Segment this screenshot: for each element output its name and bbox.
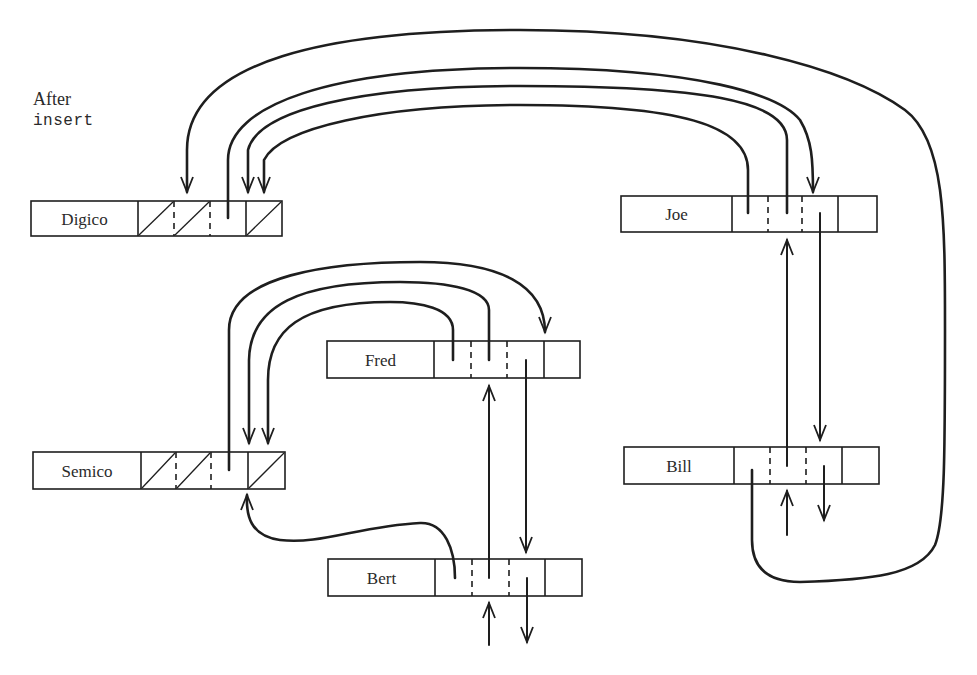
diagram-caption: After insert xyxy=(33,88,94,132)
null-pointer-slash xyxy=(249,453,284,488)
link-bill-next-out xyxy=(818,466,830,520)
link-joe-to-digico-2 xyxy=(258,105,748,213)
null-pointer-slash xyxy=(247,202,281,235)
record-name-digico: Digico xyxy=(61,210,107,229)
caption-line-after: After xyxy=(33,88,94,110)
link-fred-next-bert xyxy=(520,360,532,552)
link-bert-prev-in xyxy=(483,603,495,645)
link-bert-prev-fred xyxy=(483,386,495,578)
link-bert-next-out xyxy=(521,578,533,642)
record-name-bill: Bill xyxy=(666,457,692,476)
link-bill-prev-joe xyxy=(781,240,793,466)
record-name-semico: Semico xyxy=(62,462,113,481)
link-fred-to-semico-2 xyxy=(262,302,453,443)
null-pointer-slash xyxy=(177,453,210,488)
link-joe-next-bill xyxy=(814,213,826,440)
caption-line-insert: insert xyxy=(33,110,94,132)
null-pointer-slash xyxy=(139,202,173,235)
diagram-canvas: DigicoJoeFredSemicoBillBert xyxy=(0,0,977,675)
null-pointer-slash xyxy=(175,202,209,235)
record-name-joe: Joe xyxy=(665,205,688,224)
record-semico: Semico xyxy=(33,452,285,489)
record-name-bert: Bert xyxy=(367,569,397,588)
record-name-fred: Fred xyxy=(365,351,397,370)
linked-list-diagram: After insert DigicoJoeFredSemicoBillBert xyxy=(0,0,977,675)
record-digico: Digico xyxy=(31,201,282,236)
pointer-links xyxy=(181,30,945,645)
link-bill-prev-in xyxy=(781,491,793,535)
null-pointer-slash xyxy=(142,453,175,488)
link-bert-to-semico xyxy=(241,495,455,578)
